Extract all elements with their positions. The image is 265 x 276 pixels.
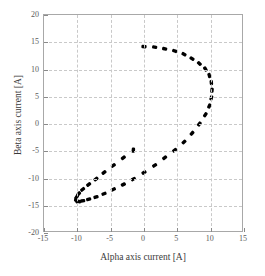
- data-marker: [86, 182, 92, 188]
- x-axis-tick-label: 15: [239, 234, 247, 243]
- data-marker: [131, 147, 135, 153]
- data-marker: [189, 56, 195, 62]
- y-axis-tick: [44, 206, 48, 207]
- y-axis-tick: [44, 124, 48, 125]
- data-marker: [110, 187, 116, 192]
- y-axis-tick-label: 20: [21, 10, 39, 19]
- x-axis-tick-label: 10: [206, 234, 214, 243]
- x-axis-tick: [244, 228, 245, 232]
- x-axis-tick-label: 5: [174, 234, 178, 243]
- data-marker: [152, 45, 158, 49]
- y-axis-tick: [44, 70, 48, 71]
- y-axis-tick-label: -20: [21, 228, 39, 237]
- data-marker: [209, 80, 213, 85]
- x-axis-tick: [77, 228, 78, 232]
- data-marker: [152, 163, 158, 169]
- data-marker: [189, 130, 195, 136]
- y-axis-tick-label: 15: [21, 37, 39, 46]
- data-marker: [210, 87, 214, 92]
- data-marker: [162, 155, 168, 161]
- data-marker: [172, 49, 178, 54]
- y-axis-tick: [44, 42, 48, 43]
- data-marker: [120, 155, 126, 161]
- x-axis-tick: [111, 228, 112, 232]
- data-marker: [162, 47, 168, 51]
- y-axis-tick-label: 10: [21, 64, 39, 73]
- data-marker: [80, 186, 86, 192]
- data-series-current-locus: [44, 15, 244, 233]
- data-marker: [203, 66, 209, 72]
- y-axis-tick-label: -5: [21, 146, 39, 155]
- data-marker: [120, 182, 126, 187]
- y-axis-tick-label: 0: [21, 119, 39, 128]
- data-marker: [93, 195, 99, 200]
- x-axis-tick-label: -5: [106, 234, 113, 243]
- data-marker: [181, 139, 187, 145]
- x-axis-tick: [144, 228, 145, 232]
- data-marker: [172, 147, 178, 153]
- y-axis-tick-label: 5: [21, 91, 39, 100]
- y-axis-tick: [44, 179, 48, 180]
- data-marker: [209, 95, 214, 101]
- data-marker: [141, 170, 147, 176]
- data-marker: [196, 60, 202, 66]
- data-marker: [207, 73, 212, 79]
- y-axis-tick: [44, 151, 48, 152]
- x-axis-title: Alpha axis current [A]: [43, 252, 243, 262]
- data-marker: [110, 162, 116, 168]
- x-axis-tick-label: -10: [71, 234, 82, 243]
- y-axis-tick-label: -10: [21, 173, 39, 182]
- data-marker: [86, 197, 92, 202]
- y-axis-tick: [44, 15, 48, 16]
- x-axis-tick: [44, 228, 45, 232]
- x-axis-tick-label: -15: [38, 234, 49, 243]
- data-marker: [202, 112, 208, 118]
- x-axis-tick: [177, 228, 178, 232]
- data-marker: [207, 103, 212, 109]
- data-marker: [130, 176, 136, 181]
- data-marker: [101, 191, 107, 196]
- x-axis-tick: [211, 228, 212, 232]
- plot-area: [43, 14, 243, 232]
- x-axis-tick-label: 0: [141, 234, 145, 243]
- data-marker: [93, 176, 99, 182]
- data-marker: [141, 45, 146, 49]
- figure: Alpha axis current [A] Beta axis current…: [0, 0, 265, 276]
- y-axis-tick: [44, 97, 48, 98]
- data-marker: [181, 52, 187, 57]
- data-marker: [101, 170, 107, 176]
- y-axis-tick-label: -15: [21, 200, 39, 209]
- data-marker: [196, 121, 202, 127]
